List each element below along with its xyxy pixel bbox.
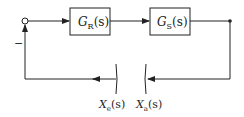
block-gr-label: GR(s)	[78, 15, 109, 31]
summing-junction	[22, 18, 28, 24]
cut-marker-xa	[145, 64, 146, 94]
feedback-sign: −	[14, 37, 23, 50]
cut-label-xe: Xe(s)	[98, 98, 125, 113]
block-diagram: − GR(s) GS(s) Xe(s) Xa(s)	[0, 0, 244, 117]
block-gs-label: GS(s)	[157, 15, 188, 31]
cut-marker-xe	[116, 64, 117, 94]
cut-label-xa: Xa(s)	[135, 98, 162, 113]
